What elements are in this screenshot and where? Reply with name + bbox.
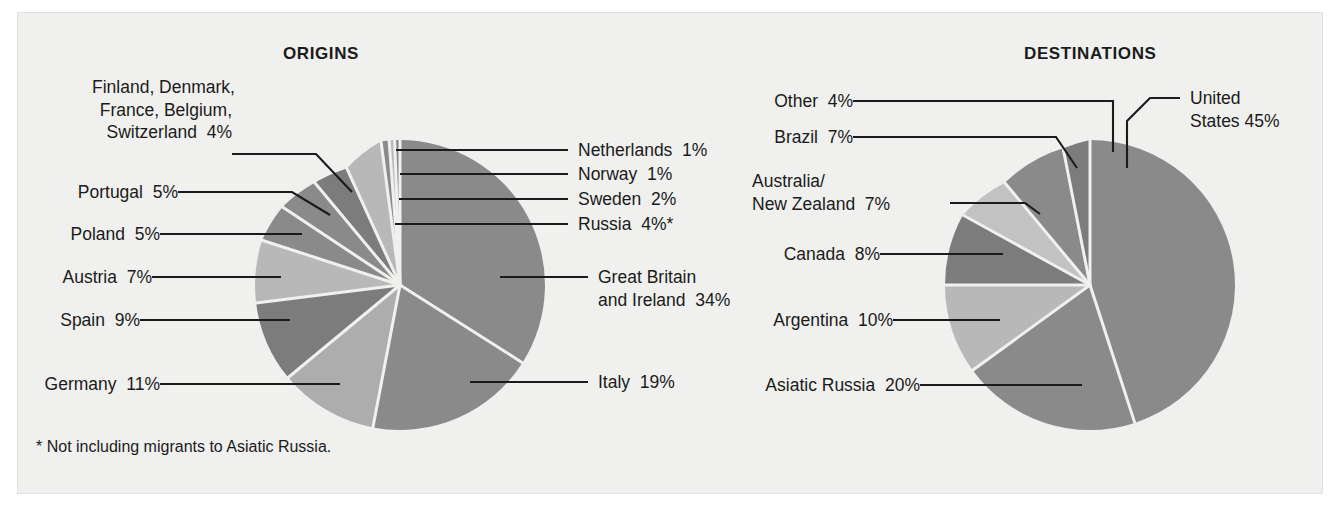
label-poland: Poland 5% [20, 223, 160, 246]
label-norway: Norway 1% [578, 163, 672, 186]
label-spain: Spain 9% [0, 309, 140, 332]
label-united-states: United States 45% [1190, 87, 1280, 132]
footnote: * Not including migrants to Asiatic Russ… [36, 438, 331, 456]
label-sweden: Sweden 2% [578, 188, 676, 211]
page-title-destinations: DESTINATIONS [1024, 44, 1157, 64]
label-argentina: Argentina 10% [753, 309, 893, 332]
label-australia-new-zealand: Australia/ New Zealand 7% [752, 170, 890, 215]
label-great-britain-and-ireland: Great Britain and Ireland 34% [598, 266, 730, 311]
label-netherlands: Netherlands 1% [578, 139, 707, 162]
label-asiatic-russia: Asiatic Russia 20% [740, 374, 920, 397]
label-austria: Austria 7% [12, 266, 152, 289]
label-portugal: Portugal 5% [38, 181, 178, 204]
label-other: Other 4% [713, 90, 853, 113]
label-russia: Russia 4%* [578, 213, 673, 236]
figure-root: ORIGINS DESTINATIONS Finland, Denmark, F… [0, 0, 1338, 507]
label-canada: Canada 8% [740, 243, 880, 266]
label-italy: Italy 19% [598, 371, 675, 394]
page-title-origins: ORIGINS [283, 44, 359, 64]
label-brazil: Brazil 7% [713, 126, 853, 149]
label-germany: Germany 11% [20, 373, 160, 396]
label-finland-group: Finland, Denmark, France, Belgium, Switz… [92, 76, 232, 144]
